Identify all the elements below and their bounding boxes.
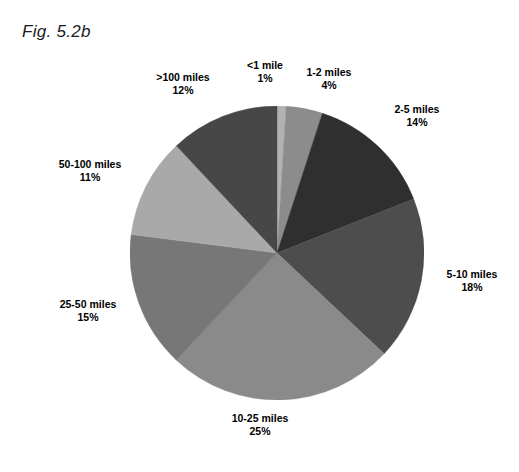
pie-label-value: 15%	[44, 311, 132, 324]
pie-label-value: 4%	[290, 79, 368, 92]
pie-label-name: 5-10 miles	[432, 268, 512, 281]
pie-label-value: 12%	[137, 84, 229, 97]
pie-label-value: 25%	[211, 425, 309, 438]
pie-chart	[130, 106, 424, 400]
pie-label-25-50-miles: 25-50 miles 15%	[44, 298, 132, 323]
pie-label-2-5-miles: 2-5 miles 14%	[378, 103, 456, 128]
pie-label-value: 14%	[378, 116, 456, 129]
pie-label-name: >100 miles	[137, 71, 229, 84]
pie-label-value: 18%	[432, 281, 512, 294]
pie-label-10-25-miles: 10-25 miles 25%	[211, 412, 309, 437]
figure-title: Fig. 5.2b	[22, 22, 91, 42]
pie-label-50-100-miles: 50-100 miles 11%	[40, 158, 140, 183]
pie-label-name: 1-2 miles	[290, 66, 368, 79]
pie-label-name: 25-50 miles	[44, 298, 132, 311]
pie-label-value: 11%	[40, 171, 140, 184]
pie-label-name: 10-25 miles	[211, 412, 309, 425]
pie-label-gt100-miles: >100 miles 12%	[137, 71, 229, 96]
pie-slice-group	[130, 106, 424, 400]
pie-chart-svg	[130, 106, 424, 400]
pie-label-name: 2-5 miles	[378, 103, 456, 116]
pie-label-5-10-miles: 5-10 miles 18%	[432, 268, 512, 293]
figure-page: Fig. 5.2b <1 mile 1% 1-2 miles 4% 2-5 mi…	[0, 0, 519, 472]
pie-label-name: 50-100 miles	[40, 158, 140, 171]
pie-label-1-2-miles: 1-2 miles 4%	[290, 66, 368, 91]
